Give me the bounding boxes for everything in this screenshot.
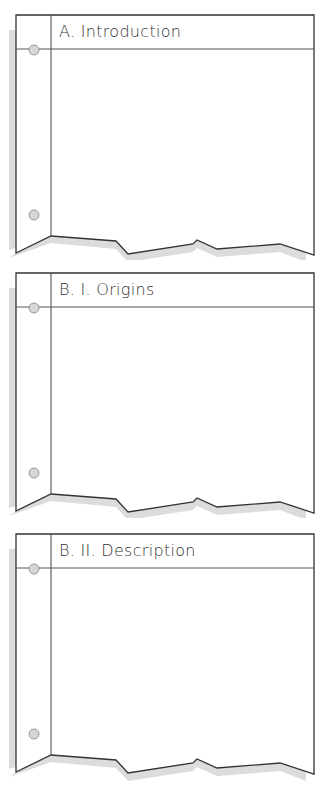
panel-introduction: A. Introduction (0, 0, 326, 260)
panel-title: A. Introduction (59, 22, 181, 41)
binder-hole-icon (29, 729, 39, 739)
binder-hole-icon (29, 210, 39, 220)
binder-hole-icon (29, 45, 39, 55)
panel-description: B. II. Description (0, 519, 326, 779)
panel-origins: B. I. Origins (0, 258, 326, 518)
binder-hole-icon (29, 564, 39, 574)
binder-hole-icon (29, 303, 39, 313)
binder-hole-icon (29, 468, 39, 478)
torn-note-page-shape (0, 258, 326, 518)
panel-title: B. I. Origins (59, 280, 155, 299)
panel-title: B. II. Description (59, 541, 196, 560)
